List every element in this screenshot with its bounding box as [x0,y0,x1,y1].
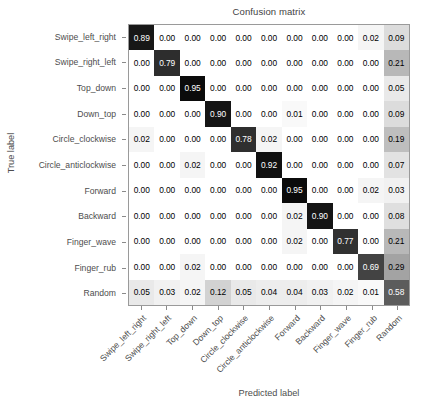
heatmap-cell: 0.00 [333,152,358,177]
heatmap-cell: 0.02 [180,152,205,177]
heatmap-cell-value: 0.00 [185,34,201,42]
heatmap-cell-value: 0.29 [388,263,404,271]
heatmap-cell: 0.77 [333,229,358,254]
heatmap-cell-value: 0.00 [312,161,328,169]
heatmap-cell-value: 0.00 [363,110,379,118]
heatmap-cell-value: 0.07 [388,161,404,169]
heatmap-cell: 0.00 [154,76,179,101]
heatmap-cell: 0.00 [333,101,358,126]
heatmap-cell-value: 0.05 [235,288,251,296]
heatmap-cell-value: 0.00 [337,161,353,169]
y-tick-label-3: Down_top [77,101,116,127]
heatmap-cell-value: 0.00 [261,84,277,92]
heatmap-cell: 0.00 [282,25,307,50]
heatmap-cell-value: 0.00 [134,212,150,220]
heatmap-cell-value: 0.02 [261,135,277,143]
heatmap-cell: 0.00 [231,25,256,50]
heatmap-cell-value: 0.92 [261,161,277,169]
heatmap-cell: 0.00 [154,254,179,279]
heatmap-cell-value: 0.00 [210,59,226,67]
heatmap-cell: 0.00 [180,101,205,126]
heatmap-cell-value: 0.00 [337,186,353,194]
heatmap-cell: 0.00 [358,203,383,228]
heatmap-cell: 0.04 [282,280,307,305]
heatmap-cell: 0.21 [384,50,409,75]
heatmap-cell-value: 0.00 [134,161,150,169]
heatmap-cell-value: 0.00 [159,110,175,118]
heatmap-cell: 0.00 [129,178,154,203]
heatmap-cell-value: 0.05 [134,288,150,296]
heatmap-cell-value: 0.02 [286,237,302,245]
heatmap-cell-value: 0.00 [261,110,277,118]
heatmap-cell-value: 0.02 [185,263,201,271]
heatmap-cell-value: 0.00 [337,135,353,143]
heatmap-cell-value: 0.00 [337,212,353,220]
heatmap-cell: 0.00 [129,203,154,228]
heatmap-cell: 0.00 [154,127,179,152]
heatmap-cell: 0.00 [256,25,281,50]
heatmap-cell: 0.00 [129,76,154,101]
heatmap-cell-value: 0.00 [185,186,201,194]
heatmap-cell: 0.00 [180,178,205,203]
heatmap-cell: 0.00 [129,229,154,254]
heatmap-cell: 0.02 [282,203,307,228]
confusion-matrix-figure: Confusion matrix True label Swipe_left_r… [0,0,421,415]
heatmap-cell: 0.29 [384,254,409,279]
heatmap-cell-value: 0.89 [134,34,150,42]
y-tick-label-7: Backward [78,203,116,229]
heatmap-cell-value: 0.00 [235,161,251,169]
heatmap-cell-value: 0.77 [337,237,353,245]
heatmap-cell: 0.00 [307,76,332,101]
heatmap-cell: 0.19 [384,127,409,152]
heatmap-cell-value: 0.00 [363,237,379,245]
heatmap-cell: 0.90 [205,101,230,126]
heatmap-cell-value: 0.00 [286,135,302,143]
heatmap-cell: 0.02 [180,254,205,279]
heatmap-cell: 0.01 [358,280,383,305]
heatmap-cell-value: 0.00 [235,59,251,67]
heatmap-cell: 0.08 [384,203,409,228]
heatmap-cell-value: 0.00 [261,212,277,220]
heatmap-cell-value: 0.00 [286,34,302,42]
heatmap-cell: 0.00 [358,127,383,152]
heatmap-cell-value: 0.00 [235,237,251,245]
heatmap-cell-value: 0.95 [185,84,201,92]
heatmap-cell: 0.00 [154,101,179,126]
heatmap-cell-value: 0.02 [185,161,201,169]
heatmap-cell-value: 0.00 [312,84,328,92]
heatmap-cell: 0.00 [231,50,256,75]
heatmap-cell-value: 0.90 [210,110,226,118]
heatmap-cell-value: 0.95 [286,186,302,194]
heatmap-cell-value: 0.05 [388,84,404,92]
heatmap-cell: 0.00 [180,229,205,254]
heatmap-cell: 0.03 [154,280,179,305]
heatmap-cell: 0.00 [154,203,179,228]
heatmap-cell-value: 0.02 [337,288,353,296]
heatmap-cell: 0.00 [282,127,307,152]
heatmap-cell: 0.00 [205,254,230,279]
heatmap-cell-value: 0.00 [286,263,302,271]
heatmap-cell-value: 0.00 [261,59,277,67]
heatmap-cell: 0.00 [129,152,154,177]
heatmap-cell-value: 0.00 [235,110,251,118]
heatmap-cell-value: 0.08 [388,212,404,220]
heatmap-cell-value: 0.00 [363,212,379,220]
heatmap-cell: 0.09 [384,101,409,126]
heatmap-cell-value: 0.00 [286,161,302,169]
x-tick-mark-5 [269,306,270,310]
heatmap-cell: 0.00 [205,50,230,75]
heatmap-cell-value: 0.02 [363,34,379,42]
heatmap-cell: 0.58 [384,280,409,305]
heatmap-cell-value: 0.03 [312,288,328,296]
heatmap-cell-value: 0.00 [337,84,353,92]
heatmap-cell: 0.02 [180,280,205,305]
heatmap-cell-value: 0.79 [159,59,175,67]
heatmap-cell-value: 0.00 [185,135,201,143]
y-tick-mark-7 [122,216,126,217]
heatmap-cell-value: 0.00 [235,84,251,92]
heatmap-cell-value: 0.01 [286,110,302,118]
heatmap-cell-value: 0.69 [363,263,379,271]
heatmap-cell-value: 0.00 [312,110,328,118]
y-tick-mark-6 [122,191,126,192]
heatmap-cell: 0.00 [256,254,281,279]
